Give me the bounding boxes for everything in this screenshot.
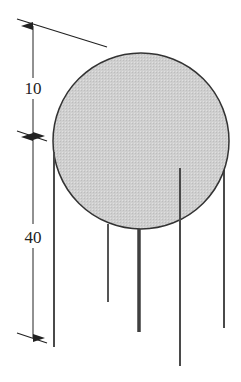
tank-diagram: 10 40 — [0, 0, 241, 382]
dimension-label-bottom: 40 — [25, 228, 42, 247]
extension-top — [17, 19, 107, 47]
sphere-tank — [53, 53, 229, 229]
extension-middle — [17, 131, 47, 141]
extension-bottom — [17, 333, 47, 343]
dimension-label-top: 10 — [25, 79, 42, 98]
